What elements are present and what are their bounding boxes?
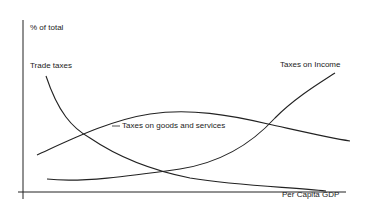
x-axis-label: Per Capita GDP <box>282 191 339 199</box>
goods-services-label: Taxes on goods and services <box>122 122 225 130</box>
trade-taxes-curve <box>46 76 326 191</box>
goods-services-curve <box>37 112 350 155</box>
y-axis-label: % of total <box>30 24 63 32</box>
trade-taxes-label: Trade taxes <box>30 62 72 70</box>
tax-structure-chart: % of total Trade taxes Taxes on goods an… <box>0 0 368 212</box>
income-taxes-label: Taxes on Income <box>280 61 340 69</box>
